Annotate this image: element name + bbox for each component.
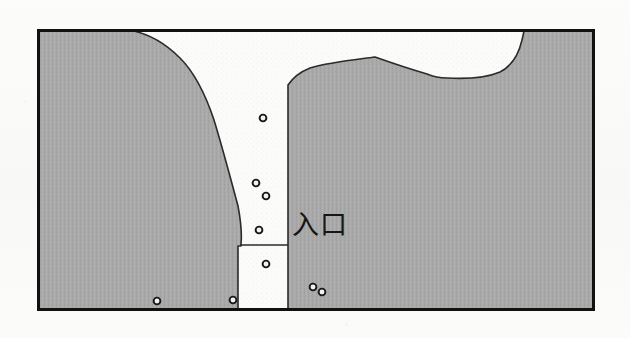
- survey-marker: [319, 289, 326, 296]
- figure-canvas: [0, 0, 630, 338]
- cave-entrance-figure: 入口: [0, 0, 630, 338]
- figure-interior: [38, 30, 594, 310]
- entrance-label: 入口: [292, 210, 348, 240]
- survey-marker: [263, 193, 270, 200]
- survey-marker: [154, 298, 161, 305]
- survey-marker: [310, 284, 317, 291]
- survey-marker: [263, 261, 270, 268]
- survey-marker: [256, 227, 263, 234]
- survey-marker: [253, 180, 260, 187]
- survey-marker: [260, 115, 267, 122]
- survey-marker: [230, 297, 237, 304]
